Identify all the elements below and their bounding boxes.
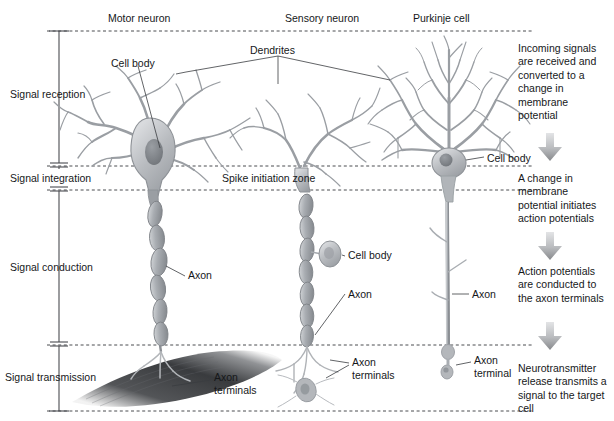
stage-label-signal-transmission: Signal transmission	[5, 371, 96, 384]
callout-axon-terminal-purkinje-line2: terminal	[474, 367, 511, 380]
callout-axon-terminal-purkinje-line1: Axon	[474, 354, 498, 367]
flow-arrow-3	[538, 322, 562, 350]
purkinje-cell-illustration	[368, 36, 530, 415]
motor-neuron-illustration	[54, 66, 282, 407]
callout-spike-initiation-zone: Spike initiation zone	[222, 172, 315, 185]
column-header-motor-neuron: Motor neuron	[108, 12, 170, 25]
stage-label-signal-integration: Signal integration	[10, 172, 91, 185]
flow-arrow-2	[538, 232, 562, 260]
flow-step-3-text: Action potentials are conducted to the a…	[518, 265, 610, 305]
stage-label-signal-reception: Signal reception	[10, 88, 85, 101]
callout-cell-body-purkinje: Cell body	[487, 152, 531, 165]
flow-arrows	[538, 133, 562, 350]
callout-axon-sensory: Axon	[348, 288, 372, 301]
callout-dendrites: Dendrites	[250, 44, 295, 57]
callout-cell-body-motor: Cell body	[111, 57, 155, 70]
flow-step-4-text: Neurotransmitter release transmits a sig…	[518, 362, 610, 416]
callout-axon-terminals-sensory-line1: Axon	[352, 356, 376, 369]
callout-axon-motor: Axon	[188, 269, 212, 282]
callout-axon-terminals-motor-line2: terminals	[214, 384, 257, 397]
callout-cell-body-sensory: Cell body	[348, 249, 392, 262]
flow-step-1-text: Incoming signals are received and conver…	[518, 42, 610, 122]
column-header-purkinje-cell: Purkinje cell	[413, 12, 470, 25]
column-header-sensory-neuron: Sensory neuron	[285, 12, 359, 25]
neuron-signaling-diagram: Motor neuron Sensory neuron Purkinje cel…	[0, 0, 614, 421]
callout-axon-purkinje: Axon	[472, 288, 496, 301]
stage-label-signal-conduction: Signal conduction	[10, 261, 93, 274]
flow-arrow-1	[538, 133, 562, 161]
callout-axon-terminals-sensory-line2: terminals	[352, 369, 395, 382]
flow-step-2-text: A change in membrane potential initiates…	[518, 172, 610, 226]
callout-axon-terminals-motor-line1: Axon	[214, 371, 238, 384]
